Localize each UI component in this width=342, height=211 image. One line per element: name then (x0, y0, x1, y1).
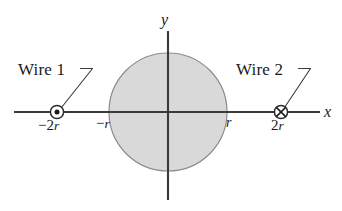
diagram-canvas (0, 0, 342, 211)
wire-2-position-number: 2 (271, 117, 279, 133)
circle-left-tick-var: r (104, 116, 109, 131)
wire-1-position-label: −2r (38, 118, 59, 133)
wire-1-position-var: r (54, 118, 59, 133)
circle-right-tick-label: r (226, 116, 231, 130)
physics-diagram-figure: Wire 1 Wire 2 y x −2r 2r −r r (0, 0, 342, 211)
x-axis-label: x (324, 104, 331, 120)
wire-2-position-label: 2r (271, 118, 284, 133)
wire-2-leader-line (285, 69, 311, 108)
wire-1-label: Wire 1 (18, 61, 65, 78)
wire-2-position-var: r (279, 118, 284, 133)
wire-1-position-number: 2 (46, 117, 54, 133)
y-axis-label: y (161, 12, 168, 28)
circle-left-tick-label: −r (96, 116, 110, 131)
wire-2-label: Wire 2 (236, 61, 283, 78)
wire-1-leader-line (62, 69, 93, 108)
